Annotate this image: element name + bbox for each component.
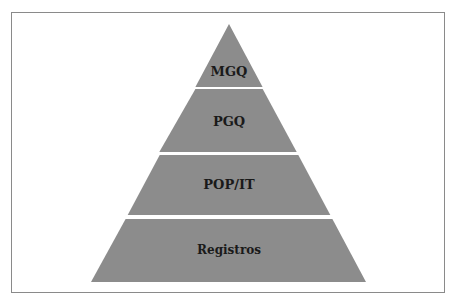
- level-label-pgq: PGQ: [213, 114, 245, 129]
- level-label-mgq: MGQ: [211, 64, 248, 79]
- level-label-registros: Registros: [197, 243, 261, 257]
- pyramid-diagram: MGQ PGQ POP/IT Registros: [0, 0, 457, 304]
- level-label-pop-it: POP/IT: [203, 177, 255, 192]
- pyramid-level-mgq: MGQ: [195, 24, 262, 87]
- pyramid-level-pgq: PGQ: [159, 89, 296, 152]
- pyramid-level-registros: Registros: [91, 219, 366, 282]
- pyramid-level-pop-it: POP/IT: [128, 155, 331, 215]
